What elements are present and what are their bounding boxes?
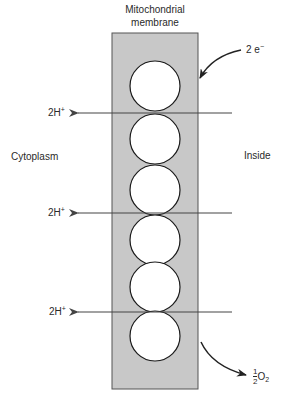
electron-label: 2 e− [246, 43, 264, 55]
carrier-circle [130, 311, 180, 361]
carrier-circle [130, 165, 180, 215]
oxygen-label: 1 2 O2 [253, 367, 269, 386]
carrier-circle [130, 114, 180, 164]
proton-label-3: 2H+ [49, 305, 66, 317]
electron-input-arrow [200, 50, 241, 78]
inside-label: Inside [244, 150, 271, 161]
carrier-circle [130, 215, 180, 265]
membrane-diagram [0, 0, 282, 399]
carrier-circle [130, 262, 180, 312]
proton-label-1: 2H+ [48, 106, 65, 118]
carrier-circle [130, 61, 180, 111]
proton-label-2: 2H+ [48, 206, 65, 218]
oxygen-output-arrow [201, 342, 246, 375]
cytoplasm-label: Cytoplasm [11, 151, 58, 162]
